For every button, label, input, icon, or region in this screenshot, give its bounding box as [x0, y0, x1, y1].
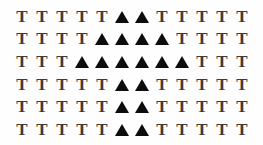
triangle-shape — [115, 79, 129, 91]
letter-t-glyph: T — [192, 28, 212, 51]
triangle-icon — [92, 50, 112, 73]
triangle-icon — [112, 5, 132, 28]
triangle-shape — [175, 56, 189, 68]
letter-t-glyph: T — [92, 95, 112, 118]
letter-t-glyph: T — [152, 95, 172, 118]
letter-t-glyph: T — [32, 118, 52, 141]
letter-t-glyph: T — [92, 118, 112, 141]
letter-t-glyph: T — [72, 5, 92, 28]
stimulus-title: Visual Search Array — [0, 0, 1, 1]
letter-t-glyph: T — [232, 73, 252, 96]
letter-t-glyph: T — [172, 95, 192, 118]
letter-t-glyph: T — [172, 5, 192, 28]
triangle-shape — [155, 33, 169, 45]
triangle-shape — [135, 124, 149, 136]
triangle-icon — [92, 28, 112, 51]
triangle-shape — [135, 33, 149, 45]
stimulus-canvas: Visual Search Array TTTTTTTTTTTTTTTTTTTT… — [0, 0, 263, 145]
triangle-icon — [132, 73, 152, 96]
triangle-shape — [135, 56, 149, 68]
triangle-icon — [132, 95, 152, 118]
letter-t-glyph: T — [192, 118, 212, 141]
triangle-shape — [115, 124, 129, 136]
letter-t-glyph: T — [212, 73, 232, 96]
triangle-icon — [112, 73, 132, 96]
letter-t-glyph: T — [52, 95, 72, 118]
letter-t-glyph: T — [212, 118, 232, 141]
stimulus-grid: TTTTTTTTTTTTTTTTTTTTTTTTTTTTTTTTTTTTTTTT… — [12, 5, 252, 141]
letter-t-glyph: T — [52, 118, 72, 141]
letter-t-glyph: T — [72, 28, 92, 51]
triangle-shape — [115, 101, 129, 113]
letter-t-glyph: T — [12, 28, 32, 51]
triangle-icon — [72, 50, 92, 73]
triangle-icon — [152, 28, 172, 51]
triangle-icon — [112, 50, 132, 73]
triangle-shape — [135, 79, 149, 91]
triangle-shape — [115, 33, 129, 45]
letter-t-glyph: T — [232, 5, 252, 28]
letter-t-glyph: T — [32, 95, 52, 118]
letter-t-glyph: T — [212, 28, 232, 51]
letter-t-glyph: T — [32, 50, 52, 73]
letter-t-glyph: T — [232, 28, 252, 51]
letter-t-glyph: T — [32, 73, 52, 96]
letter-t-glyph: T — [12, 50, 32, 73]
triangle-shape — [155, 56, 169, 68]
letter-t-glyph: T — [72, 118, 92, 141]
letter-t-glyph: T — [212, 5, 232, 28]
triangle-shape — [115, 11, 129, 23]
letter-t-glyph: T — [52, 28, 72, 51]
letter-t-glyph: T — [32, 28, 52, 51]
letter-t-glyph: T — [72, 95, 92, 118]
triangle-icon — [112, 118, 132, 141]
letter-t-glyph: T — [212, 95, 232, 118]
triangle-shape — [135, 11, 149, 23]
letter-t-glyph: T — [192, 5, 212, 28]
letter-t-glyph: T — [52, 5, 72, 28]
letter-t-glyph: T — [192, 95, 212, 118]
letter-t-glyph: T — [192, 73, 212, 96]
triangle-shape — [95, 56, 109, 68]
triangle-shape — [115, 56, 129, 68]
triangle-icon — [132, 28, 152, 51]
letter-t-glyph: T — [232, 95, 252, 118]
letter-t-glyph: T — [12, 95, 32, 118]
letter-t-glyph: T — [172, 28, 192, 51]
letter-t-glyph: T — [232, 50, 252, 73]
letter-t-glyph: T — [172, 73, 192, 96]
triangle-icon — [132, 50, 152, 73]
letter-t-glyph: T — [32, 5, 52, 28]
triangle-icon — [172, 50, 192, 73]
letter-t-glyph: T — [92, 73, 112, 96]
letter-t-glyph: T — [52, 50, 72, 73]
letter-t-glyph: T — [232, 118, 252, 141]
letter-t-glyph: T — [152, 73, 172, 96]
triangle-icon — [112, 28, 132, 51]
letter-t-glyph: T — [12, 73, 32, 96]
triangle-icon — [132, 5, 152, 28]
letter-t-glyph: T — [172, 118, 192, 141]
triangle-icon — [152, 50, 172, 73]
letter-t-glyph: T — [192, 50, 212, 73]
letter-t-glyph: T — [92, 5, 112, 28]
letter-t-glyph: T — [152, 118, 172, 141]
triangle-shape — [95, 33, 109, 45]
letter-t-glyph: T — [12, 118, 32, 141]
triangle-icon — [132, 118, 152, 141]
triangle-icon — [112, 95, 132, 118]
letter-t-glyph: T — [12, 5, 32, 28]
letter-t-glyph: T — [212, 50, 232, 73]
letter-t-glyph: T — [52, 73, 72, 96]
triangle-shape — [135, 101, 149, 113]
letter-t-glyph: T — [72, 73, 92, 96]
triangle-shape — [75, 56, 89, 68]
letter-t-glyph: T — [152, 5, 172, 28]
